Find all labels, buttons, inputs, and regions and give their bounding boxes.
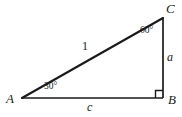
vertex-label-b: B	[168, 93, 176, 106]
vertex-label-c: C	[166, 2, 175, 15]
side-label-hypotenuse: 1	[82, 40, 88, 52]
side-label-base: c	[87, 101, 92, 113]
vertex-label-a: A	[6, 92, 14, 105]
angle-label-at-c: 60°	[140, 26, 153, 36]
triangle-diagram: A B C 1 a c 30° 60°	[0, 0, 182, 117]
side-label-vertical-leg: a	[167, 51, 173, 63]
right-angle-marker-icon	[156, 91, 164, 99]
angle-label-at-a: 30°	[44, 82, 57, 92]
